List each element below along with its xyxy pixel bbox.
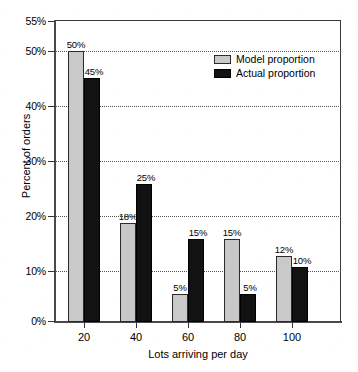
bar-label-actual-40: 25% (129, 173, 163, 183)
legend-item-model: Model proportion (214, 53, 315, 66)
y-tick-label-55: 55% (0, 16, 46, 27)
y-tick-label-50: 50% (0, 46, 46, 57)
bar-label-actual-80: 5% (233, 283, 267, 293)
x-tick-label-20: 20 (64, 331, 104, 343)
bar-label-actual-100: 10% (285, 256, 319, 266)
legend: Model proportion Actual proportion (214, 53, 315, 81)
legend-item-actual: Actual proportion (214, 67, 315, 80)
bar-label-model-80: 15% (215, 228, 249, 238)
bar-actual-40 (136, 184, 152, 322)
bar-actual-20 (84, 78, 100, 322)
y-tick-0 (48, 321, 55, 322)
y-tick-50 (48, 51, 55, 52)
x-tick-label-60: 60 (168, 331, 208, 343)
x-tick-label-100: 100 (272, 331, 312, 343)
bar-label-model-100: 12% (267, 245, 301, 255)
legend-label-actual: Actual proportion (236, 68, 315, 79)
bar-model-40 (120, 223, 136, 322)
bar-label-model-60: 5% (163, 283, 197, 293)
bar-model-60 (172, 294, 188, 322)
bar-actual-80 (240, 294, 256, 322)
x-tick-20 (84, 323, 85, 328)
x-tick-40 (136, 323, 137, 328)
y-tick-10 (48, 271, 55, 272)
x-tick-80 (240, 323, 241, 328)
y-tick-label-0: 0% (0, 316, 46, 327)
bar-label-model-20: 50% (59, 40, 93, 50)
y-tick-label-10: 10% (0, 266, 46, 277)
x-tick-label-80: 80 (220, 331, 260, 343)
y-tick-40 (48, 106, 55, 107)
bar-model-80 (224, 239, 240, 322)
bar-label-actual-60: 15% (181, 228, 215, 238)
legend-swatch-actual-icon (214, 69, 231, 78)
x-tick-60 (188, 323, 189, 328)
legend-label-model: Model proportion (236, 54, 315, 65)
y-axis-title: Percent of orders (20, 66, 32, 246)
y-tick-20 (48, 216, 55, 217)
gridline-50 (55, 51, 341, 52)
x-axis-title: Lots arriving per day (54, 348, 342, 360)
bar-model-20 (68, 51, 84, 322)
y-axis-line (54, 20, 56, 323)
bar-chart: 55% 50% 40% 30% 20% 10% 0% 50% 45% 18% 2… (0, 0, 358, 372)
legend-swatch-model-icon (214, 55, 231, 64)
x-tick-label-40: 40 (116, 331, 156, 343)
y-tick-55 (48, 21, 55, 22)
bar-label-actual-20: 45% (77, 67, 111, 77)
bar-actual-100 (292, 267, 308, 322)
bar-actual-60 (188, 239, 204, 322)
y-tick-30 (48, 161, 55, 162)
x-tick-100 (292, 323, 293, 328)
bar-label-model-40: 18% (111, 212, 145, 222)
